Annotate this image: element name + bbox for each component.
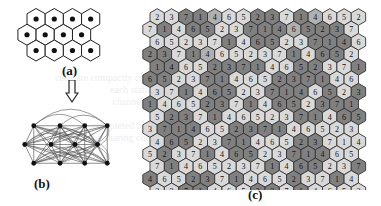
svg-text:3: 3 bbox=[234, 25, 238, 34]
svg-text:3: 3 bbox=[170, 13, 174, 22]
svg-text:4: 4 bbox=[292, 125, 296, 134]
svg-text:3: 3 bbox=[285, 113, 289, 122]
svg-text:4: 4 bbox=[227, 113, 231, 122]
svg-text:4: 4 bbox=[335, 75, 339, 84]
svg-text:3: 3 bbox=[170, 187, 174, 190]
svg-text:7: 7 bbox=[170, 88, 174, 97]
svg-text:7: 7 bbox=[285, 187, 289, 190]
svg-text:1: 1 bbox=[285, 88, 289, 97]
svg-text:3: 3 bbox=[162, 50, 166, 59]
svg-text:3: 3 bbox=[328, 63, 332, 72]
panel-b-graph bbox=[0, 98, 135, 173]
svg-text:4: 4 bbox=[321, 150, 325, 159]
svg-text:2: 2 bbox=[234, 125, 238, 134]
graph-node bbox=[82, 123, 87, 128]
graph-edges bbox=[25, 109, 109, 163]
svg-text:5: 5 bbox=[184, 138, 188, 147]
svg-text:6: 6 bbox=[198, 162, 202, 171]
svg-text:1: 1 bbox=[256, 63, 260, 72]
svg-text:7: 7 bbox=[162, 125, 166, 134]
svg-text:7: 7 bbox=[270, 88, 274, 97]
svg-text:5: 5 bbox=[206, 25, 210, 34]
svg-text:2: 2 bbox=[313, 63, 317, 72]
svg-text:3: 3 bbox=[299, 38, 303, 47]
svg-text:2: 2 bbox=[241, 88, 245, 97]
svg-text:5: 5 bbox=[313, 162, 317, 171]
svg-text:6: 6 bbox=[335, 150, 339, 159]
svg-text:4: 4 bbox=[198, 88, 202, 97]
svg-text:1: 1 bbox=[292, 50, 296, 59]
svg-text:5: 5 bbox=[270, 38, 274, 47]
svg-text:1: 1 bbox=[241, 138, 245, 147]
svg-text:3: 3 bbox=[184, 113, 188, 122]
svg-text:4: 4 bbox=[234, 75, 238, 84]
svg-text:7: 7 bbox=[321, 175, 325, 184]
svg-text:1: 1 bbox=[277, 125, 281, 134]
svg-text:2: 2 bbox=[285, 38, 289, 47]
svg-text:6: 6 bbox=[162, 175, 166, 184]
panel-b-label: (b) bbox=[34, 176, 50, 192]
svg-text:7: 7 bbox=[328, 138, 332, 147]
svg-text:6: 6 bbox=[227, 187, 231, 190]
svg-text:1: 1 bbox=[321, 75, 325, 84]
svg-text:2: 2 bbox=[299, 138, 303, 147]
svg-text:1: 1 bbox=[349, 100, 353, 109]
svg-text:5: 5 bbox=[249, 150, 253, 159]
svg-text:1: 1 bbox=[198, 187, 202, 190]
svg-text:6: 6 bbox=[299, 162, 303, 171]
svg-text:7: 7 bbox=[335, 100, 339, 109]
graph-node bbox=[58, 123, 63, 128]
svg-text:6: 6 bbox=[277, 100, 281, 109]
svg-text:4: 4 bbox=[184, 162, 188, 171]
svg-text:2: 2 bbox=[155, 187, 159, 190]
graph-node bbox=[22, 142, 27, 147]
svg-text:3: 3 bbox=[191, 75, 195, 84]
svg-text:5: 5 bbox=[263, 75, 267, 84]
svg-text:6: 6 bbox=[148, 75, 152, 84]
svg-text:2: 2 bbox=[162, 150, 166, 159]
panel-c-hex-grid: 2371465237146527146523714652376523714652… bbox=[142, 8, 378, 190]
svg-text:1: 1 bbox=[234, 175, 238, 184]
svg-text:5: 5 bbox=[162, 75, 166, 84]
svg-text:6: 6 bbox=[241, 113, 245, 122]
svg-text:4: 4 bbox=[328, 113, 332, 122]
svg-text:6: 6 bbox=[249, 75, 253, 84]
svg-text:1: 1 bbox=[220, 75, 224, 84]
svg-text:4: 4 bbox=[349, 175, 353, 184]
svg-text:3: 3 bbox=[198, 38, 202, 47]
svg-text:6: 6 bbox=[328, 13, 332, 22]
svg-text:5: 5 bbox=[177, 175, 181, 184]
svg-text:6: 6 bbox=[306, 125, 310, 134]
graph-node bbox=[105, 123, 110, 128]
svg-text:1: 1 bbox=[227, 38, 231, 47]
svg-text:1: 1 bbox=[206, 150, 210, 159]
panel-a-label: (a) bbox=[62, 63, 77, 79]
svg-text:1: 1 bbox=[356, 63, 360, 72]
svg-text:3: 3 bbox=[227, 63, 231, 72]
svg-text:7: 7 bbox=[277, 50, 281, 59]
svg-text:5: 5 bbox=[277, 175, 281, 184]
svg-text:2: 2 bbox=[177, 75, 181, 84]
svg-text:6: 6 bbox=[313, 88, 317, 97]
panel-a-hex-layout bbox=[15, 8, 125, 68]
svg-text:2: 2 bbox=[191, 175, 195, 184]
svg-text:2: 2 bbox=[213, 63, 217, 72]
svg-text:4: 4 bbox=[241, 38, 245, 47]
svg-text:1: 1 bbox=[191, 50, 195, 59]
svg-text:3: 3 bbox=[206, 175, 210, 184]
svg-text:1: 1 bbox=[184, 88, 188, 97]
svg-text:5: 5 bbox=[285, 138, 289, 147]
svg-text:2: 2 bbox=[342, 88, 346, 97]
svg-text:2: 2 bbox=[321, 25, 325, 34]
svg-text:1: 1 bbox=[299, 13, 303, 22]
graph-node bbox=[73, 142, 78, 147]
svg-text:1: 1 bbox=[335, 175, 339, 184]
svg-text:6: 6 bbox=[256, 38, 260, 47]
svg-text:7: 7 bbox=[227, 138, 231, 147]
svg-text:4: 4 bbox=[155, 138, 159, 147]
svg-text:7: 7 bbox=[234, 100, 238, 109]
svg-text:6: 6 bbox=[349, 75, 353, 84]
svg-text:6: 6 bbox=[177, 100, 181, 109]
svg-text:3: 3 bbox=[241, 162, 245, 171]
svg-text:7: 7 bbox=[313, 38, 317, 47]
